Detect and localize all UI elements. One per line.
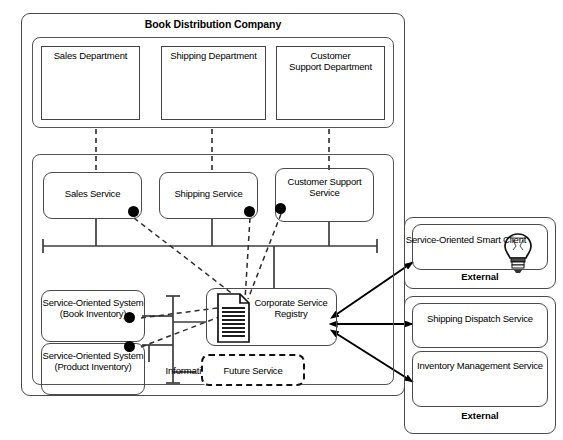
- service-customer-support-interface-dot: [275, 203, 286, 214]
- future-service[interactable]: Future Service: [201, 354, 305, 386]
- service-shipping-interface-dot: [244, 206, 255, 217]
- external-label-2: External: [404, 411, 556, 422]
- corporate-service-registry[interactable]: Corporate Service Registry: [206, 288, 337, 346]
- department-shipping-label: Shipping Department: [161, 51, 266, 62]
- system-product-inventory-interface-dot: [124, 341, 135, 352]
- external-shipping-dispatch-label: Shipping Dispatch Service: [413, 314, 547, 325]
- service-customer-support[interactable]: Customer Support Service: [275, 168, 374, 222]
- service-sales-label: Sales Service: [44, 189, 141, 200]
- external-smart-client[interactable]: Service-Oriented Smart Client: [412, 224, 548, 270]
- external-label-1: External: [404, 272, 556, 283]
- department-customer-support-label: Customer Support Department: [276, 51, 385, 72]
- external-smart-client-label: Service-Oriented Smart Client: [399, 235, 533, 246]
- service-sales-interface-dot: [128, 206, 139, 217]
- soa-architecture-diagram: Book Distribution Company Sales Departme…: [0, 0, 563, 440]
- system-product-inventory-label: Service-Oriented System (Product Invento…: [42, 351, 144, 373]
- external-inventory-management-service[interactable]: Inventory Management Service: [412, 351, 548, 407]
- future-service-label: Future Service: [203, 366, 303, 377]
- company-title: Book Distribution Company: [21, 19, 405, 31]
- department-sales-label: Sales Department: [41, 51, 140, 62]
- system-book-inventory-interface-dot: [124, 312, 135, 323]
- corporate-service-registry-label: Corporate Service Registry: [245, 298, 337, 320]
- service-customer-support-label: Customer Support Service: [276, 177, 373, 199]
- external-shipping-dispatch-service[interactable]: Shipping Dispatch Service: [412, 303, 548, 348]
- external-inventory-management-label: Inventory Management Service: [413, 361, 547, 372]
- service-shipping-label: Shipping Service: [160, 189, 257, 200]
